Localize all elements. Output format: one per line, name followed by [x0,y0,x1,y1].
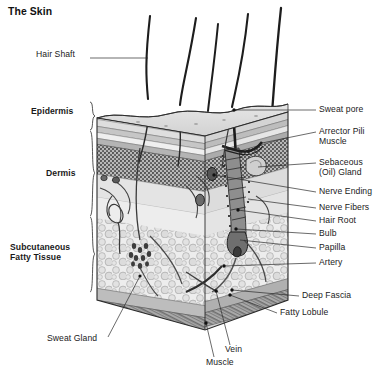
sebaceous-gland [246,156,266,175]
callout-hair-root: Hair Root [319,216,356,226]
callout-nerve-ending: Nerve Ending [319,187,372,197]
layer-label-epidermis: Epidermis [31,107,73,117]
callout-hair-shaft: Hair Shaft [36,50,75,60]
callout-artery: Artery [319,258,342,268]
callout-nerve-fibers: Nerve Fibers [319,203,369,213]
callout-muscle: Muscle [206,358,234,368]
callout-vein: Vein [225,345,242,355]
hair-shafts [146,8,281,113]
callout-sebaceous-gland-line2: (Oil) Gland [319,168,362,178]
callout-arrector-pili-line2: Muscle [319,137,347,147]
callout-bulb: Bulb [319,229,337,239]
front-face [95,118,207,332]
callout-deep-fascia: Deep Fascia [302,291,351,301]
side-face [204,111,290,330]
skin-diagram: The Skin [0,0,390,377]
callout-fatty-lobule: Fatty Lobule [280,308,328,318]
layer-braces [90,102,95,292]
layer-label-subcutaneous-line2: Fatty Tissue [10,253,61,263]
layer-label-dermis: Dermis [46,169,76,179]
callout-sweat-pore: Sweat pore [319,105,363,115]
callout-papilla: Papilla [319,243,345,253]
callout-sweat-gland: Sweat Gland [47,334,97,344]
